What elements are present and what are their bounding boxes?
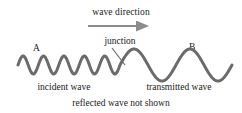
reflected-wave-note: reflected wave not shown	[0, 99, 242, 109]
incident-wave-label: incident wave	[16, 83, 112, 93]
transmitted-wave-label: transmitted wave	[131, 83, 227, 93]
wave-curve	[0, 0, 242, 113]
wave-junction-diagram: wave direction junction A B incident wav…	[0, 0, 242, 113]
wave-path-icon	[18, 49, 232, 81]
